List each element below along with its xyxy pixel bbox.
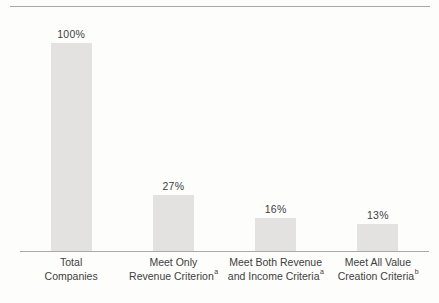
- footnote-marker: a: [320, 268, 324, 275]
- plot-area: 100%27%16%13%: [20, 0, 429, 251]
- bar-group: 16%: [225, 0, 327, 251]
- x-tick-label-line2: Revenue Criteriona: [122, 270, 224, 284]
- bar: [51, 43, 92, 251]
- bar-chart-figure: 100%27%16%13% TotalCompaniesMeet OnlyRev…: [0, 0, 439, 303]
- bar-group: 100%: [20, 0, 122, 251]
- bar-group: 27%: [122, 0, 224, 251]
- footnote-marker: b: [415, 268, 419, 275]
- bar-group: 13%: [327, 0, 429, 251]
- bar: [255, 218, 296, 251]
- x-tick-label-line2-text: Companies: [45, 270, 98, 282]
- x-tick-label-line2-text: and Income Criteria: [228, 270, 320, 282]
- footnote-marker: a: [214, 268, 218, 275]
- bar-value-label: 27%: [163, 180, 185, 192]
- x-tick-label-line1: Meet Only: [122, 256, 224, 270]
- x-axis-line: [20, 251, 429, 252]
- bar: [153, 195, 194, 251]
- x-tick-label: Meet Both Revenueand Income Criteriaa: [225, 256, 327, 283]
- x-tick-label-line2: and Income Criteriaa: [225, 270, 327, 284]
- x-tick-label-line2: Creation Criteriab: [327, 270, 429, 284]
- x-tick-label-line1: Meet All Value: [327, 256, 429, 270]
- x-axis-labels: TotalCompaniesMeet OnlyRevenue Criterion…: [20, 256, 429, 283]
- x-tick-label: Meet All ValueCreation Criteriab: [327, 256, 429, 283]
- x-tick-label-line1: Total: [20, 256, 122, 270]
- x-tick-label-line2-text: Revenue Criterion: [129, 270, 214, 282]
- x-tick-label-line2: Companies: [20, 270, 122, 284]
- x-tick-label: TotalCompanies: [20, 256, 122, 283]
- x-tick-label-line2-text: Creation Criteria: [338, 270, 414, 282]
- bar-value-label: 16%: [265, 203, 287, 215]
- bar-value-label: 100%: [57, 28, 85, 40]
- bar: [357, 224, 398, 251]
- bar-value-label: 13%: [367, 209, 389, 221]
- x-tick-label: Meet OnlyRevenue Criteriona: [122, 256, 224, 283]
- x-tick-label-line1: Meet Both Revenue: [225, 256, 327, 270]
